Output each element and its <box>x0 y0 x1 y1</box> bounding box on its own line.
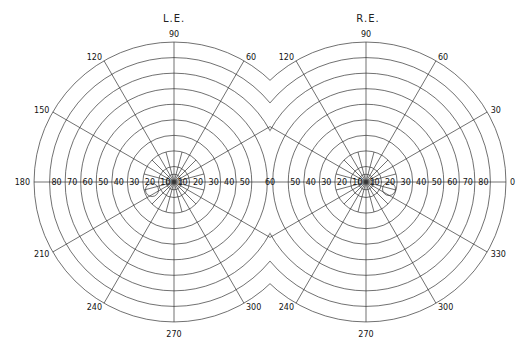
left-meridian-label-60: 60 <box>246 53 256 62</box>
visual-field-chart: 9012015018021024027030060901206030033030… <box>0 0 530 346</box>
right-axis-label: 10 <box>352 178 362 187</box>
right-meridian-label-30: 30 <box>491 106 501 115</box>
left-axis-label: 20 <box>145 178 155 187</box>
right-axis-label: 20 <box>385 178 395 187</box>
left-axis-label: 60 <box>83 178 93 187</box>
right-meridian-label-0: 0 <box>510 178 515 187</box>
right-meridian-label-330: 330 <box>491 250 506 259</box>
left-axis-label: 10 <box>177 178 187 187</box>
left-meridian-label-210: 210 <box>34 250 49 259</box>
left-axis-label: 30 <box>129 178 139 187</box>
left-eye-title: L.E. <box>163 13 185 24</box>
left-axis-label: 70 <box>67 178 77 187</box>
field-labels: 9012015018021024027030060901206030033030… <box>15 30 515 339</box>
left-meridian-label-90: 90 <box>169 30 179 39</box>
left-meridian-label-270: 270 <box>166 330 181 339</box>
left-axis-label: 50 <box>240 178 250 187</box>
right-axis-label: 20 <box>337 178 347 187</box>
right-axis-label: 80 <box>478 178 488 187</box>
left-axis-label: 80 <box>52 178 62 187</box>
left-meridian-label-120: 120 <box>87 53 102 62</box>
right-axis-label: 30 <box>401 178 411 187</box>
right-axis-label: 40 <box>306 178 316 187</box>
right-meridian-label-60: 60 <box>438 53 448 62</box>
right-meridian-label-240: 240 <box>279 303 294 312</box>
right-axis-label: 60 <box>447 178 457 187</box>
midline-axis-label: 60 <box>265 178 275 187</box>
left-axis-label: 30 <box>209 178 219 187</box>
right-meridian-label-270: 270 <box>358 330 373 339</box>
left-meridian-label-240: 240 <box>87 303 102 312</box>
left-meridian-label-150: 150 <box>34 106 49 115</box>
right-axis-label: 70 <box>463 178 473 187</box>
right-axis-label: 30 <box>321 178 331 187</box>
right-meridian-label-120: 120 <box>279 53 294 62</box>
left-meridian-label-180: 180 <box>15 178 30 187</box>
left-axis-label: 40 <box>114 178 124 187</box>
right-meridian-label-300: 300 <box>438 303 453 312</box>
right-axis-label: 50 <box>432 178 442 187</box>
right-eye-title: R.E. <box>356 13 379 24</box>
left-meridian-label-300: 300 <box>246 303 261 312</box>
left-axis-label: 20 <box>193 178 203 187</box>
right-axis-label: 10 <box>369 178 379 187</box>
left-axis-label: 10 <box>160 178 170 187</box>
right-axis-label: 40 <box>416 178 426 187</box>
left-axis-label: 50 <box>98 178 108 187</box>
left-axis-label: 40 <box>224 178 234 187</box>
right-axis-label: 50 <box>290 178 300 187</box>
right-meridian-label-90: 90 <box>361 30 371 39</box>
